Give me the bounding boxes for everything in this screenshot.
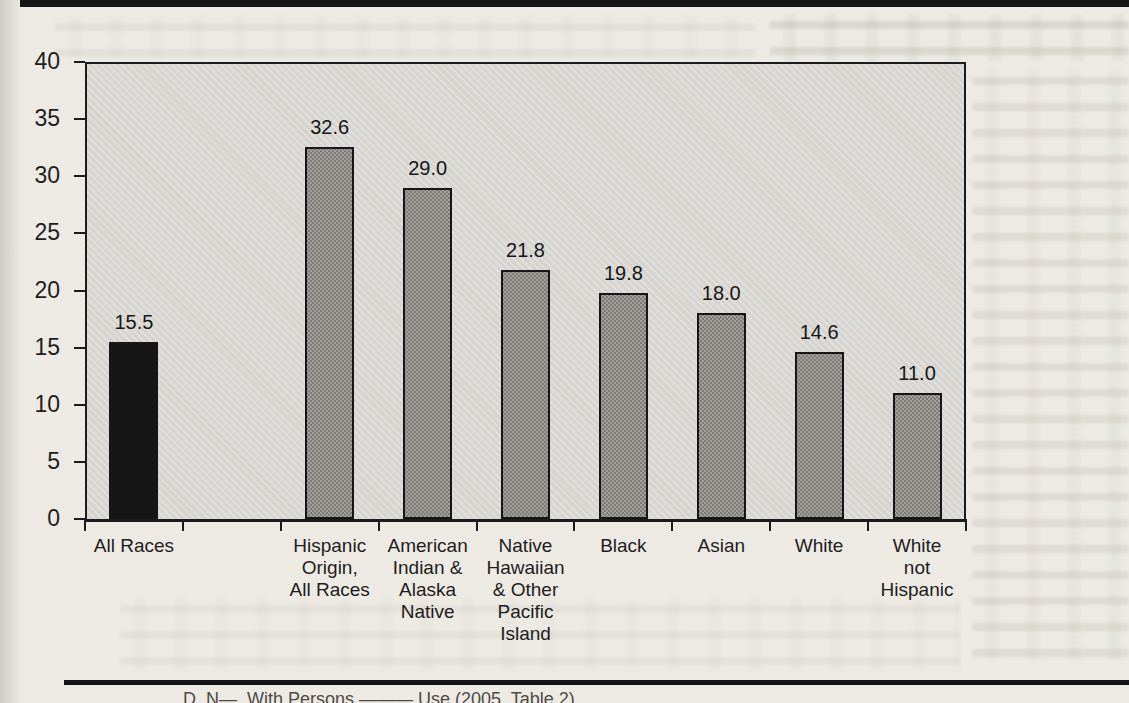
y-axis-tick [74,232,85,234]
y-axis-tick-label: 20 [10,279,60,302]
y-axis-tick [74,290,85,292]
category-label-line: Hispanic [278,535,382,557]
category-label-line: Origin, [278,557,382,579]
category-label-line: not [865,557,969,579]
bar-hispanic-origin-all-races [305,147,354,519]
y-axis-tick-label: 25 [10,221,60,244]
bar-value-label-white-not-hispanic: 11.0 [877,363,957,383]
category-label-line: Pacific [474,601,578,623]
y-axis-tick [74,461,85,463]
category-label-line: American [376,535,480,557]
x-axis-tick [867,522,869,531]
bar-asian [697,313,746,519]
scanned-page: 051015202530354015.5All Races32.6Hispani… [0,0,1129,703]
x-axis-tick [671,522,673,531]
y-axis-tick-label: 35 [10,107,60,130]
bar-all-races [109,342,158,519]
bar-american-indian-alaska-native [403,188,452,519]
y-axis-tick [74,404,85,406]
category-label-american-indian-alaska-native: AmericanIndian &AlaskaNative [376,535,480,623]
y-axis-tick [74,347,85,349]
bar-value-label-white: 14.6 [779,322,859,342]
category-label-white: White [767,535,871,557]
category-label-line: Native [474,535,578,557]
bar-value-label-black: 19.8 [583,263,663,283]
category-label-line: White [767,535,871,557]
category-label-line: All Races [278,579,382,601]
x-axis-tick [280,522,282,531]
category-label-line: & Other [474,579,578,601]
category-label-black: Black [571,535,675,557]
page-top-rule [20,0,1129,7]
bleed-through-text [770,14,1129,62]
category-label-line: Indian & [376,557,480,579]
y-axis-tick-label: 15 [10,336,60,359]
y-axis-tick-label: 10 [10,393,60,416]
x-axis-line [84,519,967,522]
bar-value-label-hispanic-origin-all-races: 32.6 [290,117,370,137]
category-label-line: Alaska [376,579,480,601]
category-label-white-not-hispanic: WhitenotHispanic [865,535,969,601]
bar-value-label-native-hawaiian-other-pacific-island: 21.8 [486,240,566,260]
bar-native-hawaiian-other-pacific-island [501,270,550,519]
category-label-line: Island [474,623,578,645]
category-label-line: Hispanic [865,579,969,601]
category-label-line: Hawaiian [474,557,578,579]
x-axis-tick [573,522,575,531]
x-axis-tick [378,522,380,531]
bar-value-label-american-indian-alaska-native: 29.0 [388,158,468,178]
y-axis-tick [74,61,85,63]
x-axis-tick [769,522,771,531]
category-label-native-hawaiian-other-pacific-island: NativeHawaiian& OtherPacificIsland [474,535,578,645]
bleed-through-text [55,16,755,58]
figure-caption-clipped: D. N—, With Persons ——— Use (2005, Table… [183,688,883,703]
y-axis-tick-label: 40 [10,50,60,73]
y-axis-tick-label: 0 [10,507,60,530]
x-axis-tick [965,522,967,531]
bar-value-label-all-races: 15.5 [94,312,174,332]
y-axis-tick-label: 30 [10,164,60,187]
y-axis-tick [74,518,85,520]
category-label-all-races: All Races [82,535,186,557]
x-axis-tick [182,522,184,531]
bleed-through-text [972,70,1129,660]
category-label-line: Asian [669,535,773,557]
y-axis-tick [74,175,85,177]
category-label-hispanic-origin-all-races: HispanicOrigin,All Races [278,535,382,601]
category-label-asian: Asian [669,535,773,557]
bar-black [599,293,648,519]
category-label-line: Black [571,535,675,557]
y-axis-tick-label: 5 [10,450,60,473]
page-bottom-rule [64,680,1129,685]
bar-value-label-asian: 18.0 [681,283,761,303]
category-label-line: Native [376,601,480,623]
x-axis-tick [84,522,86,531]
y-axis-tick [74,118,85,120]
category-label-line: White [865,535,969,557]
category-label-line: All Races [82,535,186,557]
bar-white [795,352,844,519]
bar-white-not-hispanic [893,393,942,519]
x-axis-tick [476,522,478,531]
